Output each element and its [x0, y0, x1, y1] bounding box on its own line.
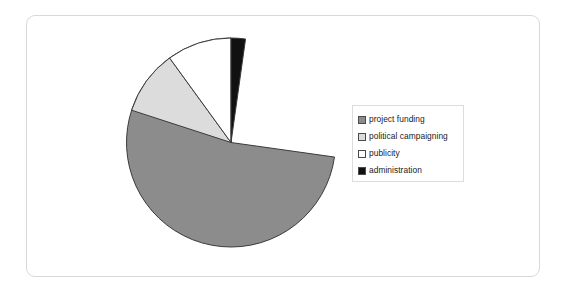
chart-legend: project funding political campaigning pu… — [352, 105, 464, 182]
legend-swatch-publicity — [358, 150, 366, 158]
legend-swatch-project-funding — [358, 116, 366, 124]
pie-slice-administration[interactable] — [231, 38, 246, 143]
legend-label-administration: administration — [369, 162, 422, 179]
legend-item-administration[interactable]: administration — [358, 162, 459, 179]
legend-swatch-administration — [358, 167, 366, 175]
legend-label-project-funding: project funding — [369, 111, 425, 128]
legend-swatch-political-campaigning — [358, 133, 366, 141]
legend-label-political-campaigning: political campaigning — [369, 128, 448, 145]
pie-slice-group — [126, 38, 334, 247]
pie-chart-svg — [0, 0, 568, 293]
legend-item-publicity[interactable]: publicity — [358, 145, 459, 162]
legend-item-political-campaigning[interactable]: political campaigning — [358, 128, 459, 145]
pie-chart-plot-area — [0, 0, 568, 293]
chart-root: project funding political campaigning pu… — [0, 0, 568, 293]
legend-label-publicity: publicity — [369, 145, 400, 162]
legend-item-project-funding[interactable]: project funding — [358, 111, 459, 128]
